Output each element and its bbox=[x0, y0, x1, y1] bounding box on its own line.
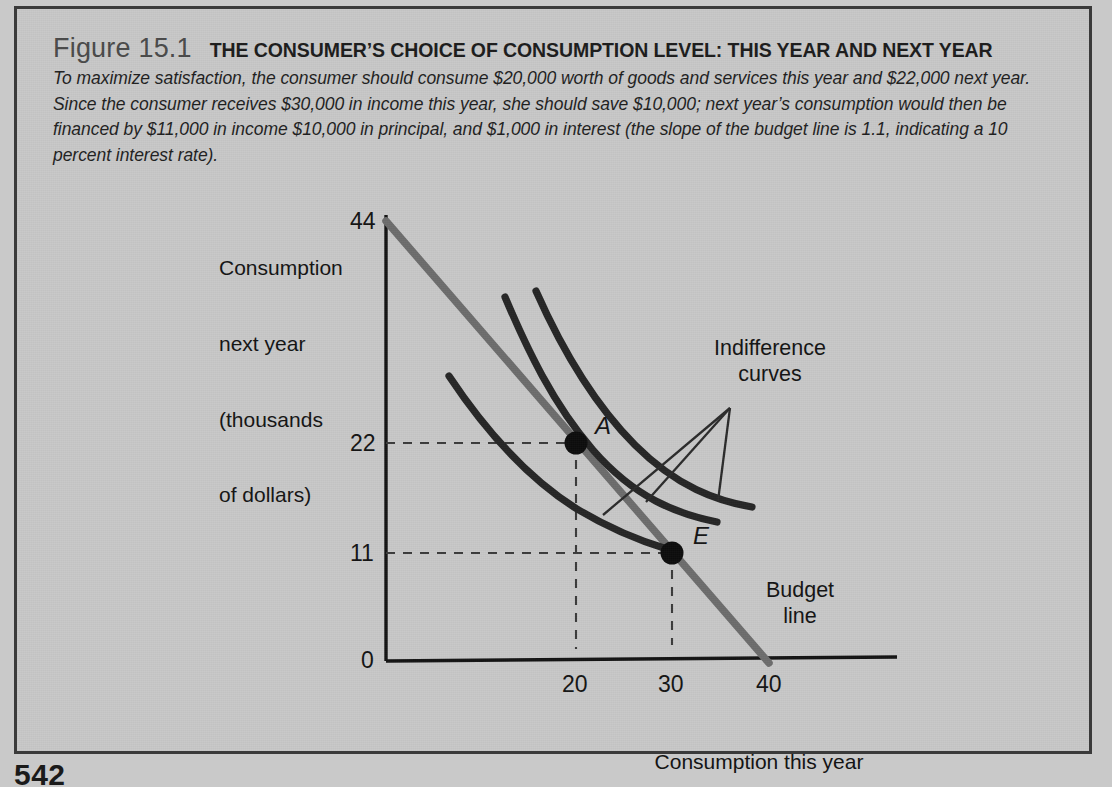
data-point-A bbox=[565, 432, 588, 455]
annotation-indifference-curves: Indifference curves bbox=[665, 335, 875, 387]
chart-plot-area: Consumption next year (thousands of doll… bbox=[17, 9, 1095, 757]
data-point-E bbox=[661, 542, 684, 565]
y-tick-label-22: 22 bbox=[350, 430, 376, 457]
y-axis-title: Consumption next year (thousands of doll… bbox=[219, 205, 379, 558]
x-tick-label-40: 40 bbox=[756, 671, 782, 698]
y-tick-label-44: 44 bbox=[350, 208, 376, 235]
annotation-indifference-curves-line-2: curves bbox=[665, 361, 875, 387]
y-tick-label-0: 0 bbox=[361, 647, 374, 674]
y-axis-title-line-1: Consumption bbox=[219, 255, 379, 280]
y-tick-label-11: 11 bbox=[350, 540, 374, 567]
textbook-page: Figure 15.1 THE CONSUMER’S CHOICE OF CON… bbox=[0, 0, 1112, 787]
indifference-curve-2 bbox=[505, 297, 717, 522]
leader-line-3 bbox=[718, 408, 730, 501]
annotation-budget-line-line-1: Budget bbox=[735, 577, 865, 603]
x-axis-title: Consumption this year (thousands of doll… bbox=[594, 699, 924, 787]
annotation-budget-line-line-2: line bbox=[735, 603, 865, 629]
y-axis-title-line-3: (thousands bbox=[219, 407, 379, 432]
page-folio: 542 bbox=[14, 758, 66, 787]
x-tick-label-30: 30 bbox=[658, 671, 684, 698]
figure-panel: Figure 15.1 THE CONSUMER’S CHOICE OF CON… bbox=[14, 6, 1092, 754]
y-axis-title-line-4: of dollars) bbox=[219, 482, 379, 507]
x-axis-title-line-1: Consumption this year bbox=[594, 749, 924, 774]
x-tick-label-20: 20 bbox=[562, 671, 588, 698]
annotation-budget-line: Budget line bbox=[735, 577, 865, 629]
chart-svg bbox=[17, 9, 1095, 757]
y-axis-title-line-2: next year bbox=[219, 331, 379, 356]
x-axis bbox=[386, 657, 897, 661]
annotation-indifference-curves-line-1: Indifference bbox=[665, 335, 875, 361]
indifference-curve-3 bbox=[536, 291, 752, 507]
point-label-A: A bbox=[595, 412, 611, 440]
point-label-E: E bbox=[693, 522, 709, 550]
